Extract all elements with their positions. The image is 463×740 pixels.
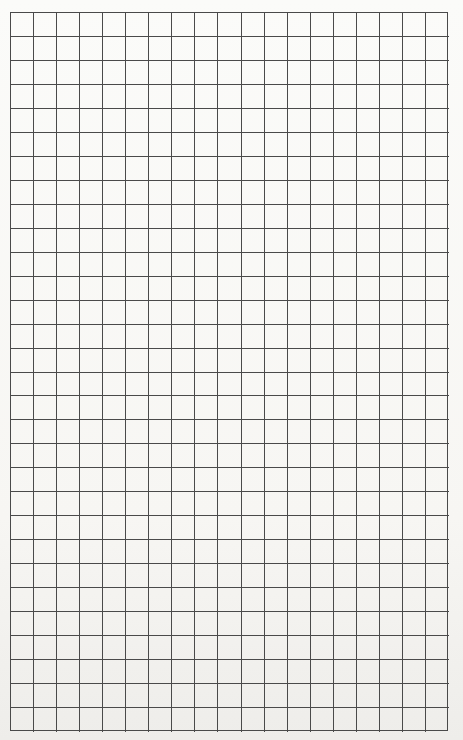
grid-lines xyxy=(11,13,449,732)
header-text-fragment xyxy=(0,0,463,6)
square-grid xyxy=(10,12,448,731)
graph-paper-page xyxy=(0,0,463,740)
